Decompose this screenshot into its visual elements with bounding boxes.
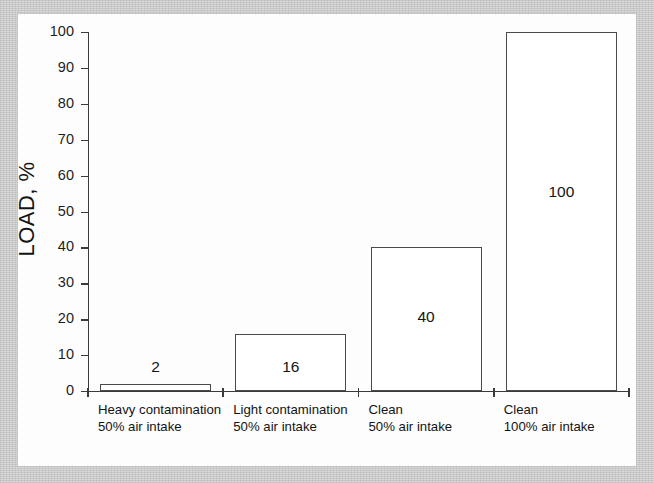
bar-value-label-3: 40 bbox=[371, 308, 482, 326]
y-axis-line bbox=[88, 32, 89, 392]
category-line-2: 50% air intake bbox=[369, 418, 453, 435]
y-tick-label: 40 bbox=[40, 239, 74, 254]
category-line-1: Clean bbox=[369, 401, 453, 418]
category-line-2: 50% air intake bbox=[98, 418, 221, 435]
x-category-label-4: Clean100% air intake bbox=[504, 401, 595, 436]
y-tick-mark bbox=[81, 140, 88, 141]
y-axis-title: LOAD, % bbox=[14, 119, 40, 299]
y-tick-label: 60 bbox=[40, 168, 74, 183]
bar-value-label-2: 16 bbox=[235, 358, 346, 376]
y-tick-mark bbox=[81, 176, 88, 177]
x-category-label-1: Heavy contamination50% air intake bbox=[98, 401, 221, 436]
x-tick-mark-3 bbox=[493, 388, 495, 397]
category-line-2: 100% air intake bbox=[504, 418, 595, 435]
x-category-label-3: Clean50% air intake bbox=[369, 401, 453, 436]
y-tick-mark bbox=[81, 32, 88, 33]
x-tick-mark-1 bbox=[222, 388, 224, 397]
y-tick-mark bbox=[81, 212, 88, 213]
bar-chart: LOAD, % 0102030405060708090100 21640100 … bbox=[0, 0, 654, 483]
y-tick-label: 30 bbox=[40, 275, 74, 290]
x-tick-mark-4 bbox=[628, 388, 630, 397]
y-tick-label: 90 bbox=[40, 60, 74, 75]
category-line-1: Heavy contamination bbox=[98, 401, 221, 418]
y-tick-label: 50 bbox=[40, 204, 74, 219]
category-line-2: 50% air intake bbox=[233, 418, 347, 435]
bar-value-label-1: 2 bbox=[100, 358, 211, 376]
category-line-1: Clean bbox=[504, 401, 595, 418]
bar-value-label-4: 100 bbox=[506, 183, 617, 201]
y-tick-label: 0 bbox=[40, 383, 74, 398]
y-tick-label: 10 bbox=[40, 347, 74, 362]
x-tick-mark-2 bbox=[358, 388, 360, 397]
bar-4 bbox=[506, 32, 617, 391]
y-tick-mark bbox=[81, 247, 88, 248]
y-tick-mark bbox=[81, 283, 88, 284]
y-tick-label: 100 bbox=[40, 24, 74, 39]
x-category-label-2: Light contamination50% air intake bbox=[233, 401, 347, 436]
y-tick-label: 80 bbox=[40, 96, 74, 111]
y-tick-label: 70 bbox=[40, 132, 74, 147]
y-tick-mark bbox=[81, 68, 88, 69]
category-line-1: Light contamination bbox=[233, 401, 347, 418]
x-tick-mark-0 bbox=[87, 388, 89, 397]
y-tick-mark bbox=[81, 319, 88, 320]
y-tick-mark bbox=[81, 355, 88, 356]
chart-screenshot: LOAD, % 0102030405060708090100 21640100 … bbox=[0, 0, 654, 483]
y-tick-label: 20 bbox=[40, 311, 74, 326]
y-tick-mark bbox=[81, 104, 88, 105]
bar-1 bbox=[100, 384, 211, 391]
